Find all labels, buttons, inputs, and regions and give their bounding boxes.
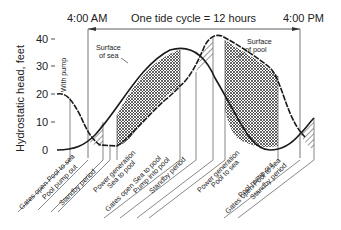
y-axis-label: Hydrostatic head, feet — [14, 45, 26, 152]
y-axis-ticks: 40 30 20 10 0 — [36, 33, 55, 156]
generation-region-2 — [225, 40, 278, 147]
sea-surface-label-2: of sea — [99, 51, 119, 60]
svg-text:0: 0 — [42, 144, 48, 156]
end-time-label: 4:00 PM — [283, 12, 324, 24]
start-time-label: 4:00 AM — [67, 12, 107, 24]
svg-text:20: 20 — [36, 88, 48, 100]
svg-text:10: 10 — [36, 116, 48, 128]
tidal-power-cycle-diagram: 4:00 AM One tide cycle = 12 hours 4:00 P… — [0, 0, 341, 230]
phase-label: Power generation — [195, 148, 241, 194]
pool-surface-label-2: of pool — [245, 45, 267, 54]
with-pump-label: With pump — [59, 58, 68, 92]
svg-text:40: 40 — [36, 33, 48, 45]
sea-surface-leader — [121, 58, 128, 63]
svg-text:30: 30 — [36, 60, 48, 72]
generation-region-1 — [117, 50, 180, 146]
cycle-span-arrow — [88, 27, 300, 31]
cycle-duration-label: One tide cycle = 12 hours — [131, 12, 257, 24]
